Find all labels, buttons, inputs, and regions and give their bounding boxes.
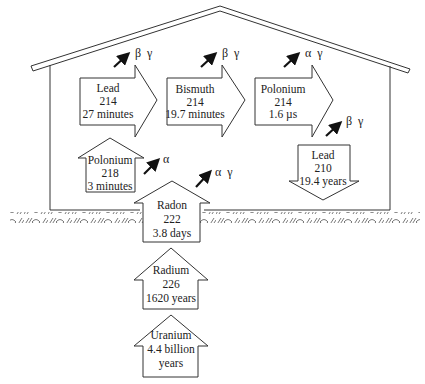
half-life: 3.8 days	[153, 227, 192, 240]
emission-polonium-218: α	[144, 152, 170, 174]
mass-number: 226	[162, 278, 180, 290]
nuclide-name: Lead	[97, 82, 120, 94]
emission-label: α γ	[215, 165, 233, 179]
nuclide-lead-210: Lead 210 19.4 years	[289, 145, 359, 200]
nuclide-polonium-214: Polonium 214 1.6 µs	[255, 65, 333, 137]
mass-number: 222	[163, 213, 181, 225]
nuclide-name: Polonium	[88, 154, 133, 166]
emission-label: α γ	[305, 46, 323, 60]
mass-number: 214	[274, 96, 292, 108]
ground-hatch	[10, 212, 420, 223]
emission-polonium-214: α γ	[284, 46, 323, 67]
half-life: 4.4 billion	[147, 343, 195, 355]
nuclide-radon: Radon 222 3.8 days	[134, 181, 210, 242]
nuclide-name: Bismuth	[176, 83, 215, 95]
nuclide-polonium-218: Polonium 218 3 minutes	[78, 138, 144, 192]
half-life: 3 minutes	[87, 180, 133, 192]
mass-number: 214	[186, 96, 204, 108]
emission-arrow-icon	[284, 55, 297, 67]
emission-label: α	[163, 152, 170, 166]
radon-decay-diagram: Uranium 4.4 billion years Radium 226 162…	[0, 0, 425, 384]
nuclide-name: Radium	[153, 264, 189, 276]
emission-arrow-icon	[144, 161, 157, 174]
emission-arrow-icon	[196, 173, 209, 187]
emission-arrow-icon	[201, 55, 214, 67]
emission-label: β γ	[135, 46, 153, 60]
emission-label: β γ	[222, 46, 240, 60]
nuclide-name: Uranium	[151, 329, 192, 341]
nuclide-name: Lead	[312, 149, 335, 161]
emission-radon: α γ	[196, 165, 233, 187]
emission-arrow-icon	[114, 55, 127, 67]
half-life: 1.6 µs	[269, 108, 298, 121]
mass-number: 218	[101, 167, 119, 179]
mass-number: 210	[314, 162, 332, 174]
roof-outer	[31, 6, 410, 69]
nuclide-name: Polonium	[261, 83, 306, 95]
emission-bismuth-214: β γ	[201, 46, 240, 67]
roof-inner	[33, 11, 408, 73]
nuclide-radium: Radium 226 1620 years	[134, 248, 208, 309]
nuclide-uranium: Uranium 4.4 billion years	[134, 315, 208, 377]
emission-label: β γ	[346, 114, 364, 128]
mass-number: 214	[99, 95, 117, 107]
nuclide-name: Radon	[157, 199, 187, 211]
emission-lead-214: β γ	[114, 46, 153, 67]
half-life: 19.4 years	[299, 175, 347, 188]
half-life: 1620 years	[146, 292, 197, 305]
half-life: 27 minutes	[83, 108, 134, 120]
emission-arrow-icon	[326, 124, 339, 136]
emission-polonium-214-beta: β γ	[326, 114, 364, 136]
half-life: years	[159, 357, 184, 370]
nuclide-lead-214: Lead 214 27 minutes	[80, 65, 157, 137]
nuclide-bismuth-214: Bismuth 214 19.7 minutes	[165, 65, 245, 137]
half-life: 19.7 minutes	[165, 108, 225, 120]
